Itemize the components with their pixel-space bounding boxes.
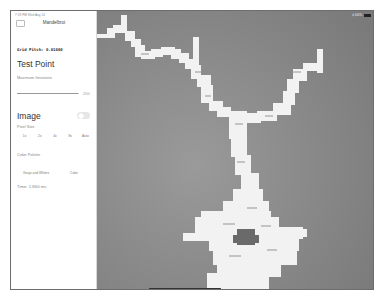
- pixel-size-2x[interactable]: 2x: [32, 132, 47, 140]
- max-iterations-slider[interactable]: [17, 91, 79, 95]
- pixel-size-segmented-control: 1x 2x 4x 8x Auto: [17, 132, 93, 140]
- slider-fill: [17, 93, 78, 94]
- pixel-size-8x[interactable]: 8x: [63, 132, 78, 140]
- fractal-canvas[interactable]: ⚲ 100%: [97, 11, 374, 290]
- status-time: 7:33 PM Wed Aug 14: [15, 13, 45, 17]
- pixel-size-1x[interactable]: 1x: [17, 132, 32, 140]
- home-indicator[interactable]: [149, 288, 221, 289]
- palette-color[interactable]: Color: [55, 169, 93, 177]
- image-heading: Image: [17, 111, 41, 121]
- ipad-frame: 7:33 PM Wed Aug 14 Mandelbrot Grid Pitch…: [10, 10, 374, 290]
- image-toggle[interactable]: [77, 112, 90, 119]
- max-iterations-label: Maximum Iterations: [17, 75, 52, 80]
- color-palette-label: Color Palette: [17, 152, 40, 157]
- pixel-size-label: Pixel Size: [17, 124, 35, 129]
- pixel-size-auto[interactable]: Auto: [78, 132, 93, 140]
- nav-title: Mandelbrot: [11, 20, 97, 25]
- palette-grays-and-whites[interactable]: Grays and Whites: [17, 169, 55, 177]
- pixel-size-4x[interactable]: 4x: [47, 132, 62, 140]
- mandelbrot-image: [97, 11, 374, 290]
- sidebar: 7:33 PM Wed Aug 14 Mandelbrot Grid Pitch…: [11, 11, 97, 289]
- battery-icon: [364, 14, 371, 17]
- test-point-heading: Test Point: [17, 59, 54, 69]
- toggle-knob: [78, 113, 84, 119]
- status-right: ⚲ 100%: [352, 13, 371, 17]
- render-time: Time: 1,860 ms: [17, 184, 46, 189]
- grid-pitch-text: Grid Pitch: 0.01000: [17, 47, 63, 52]
- max-iterations-value: 200: [83, 91, 90, 96]
- color-palette-segmented-control: Grays and Whites Color: [17, 169, 93, 177]
- status-right-text: ⚲ 100%: [352, 13, 363, 17]
